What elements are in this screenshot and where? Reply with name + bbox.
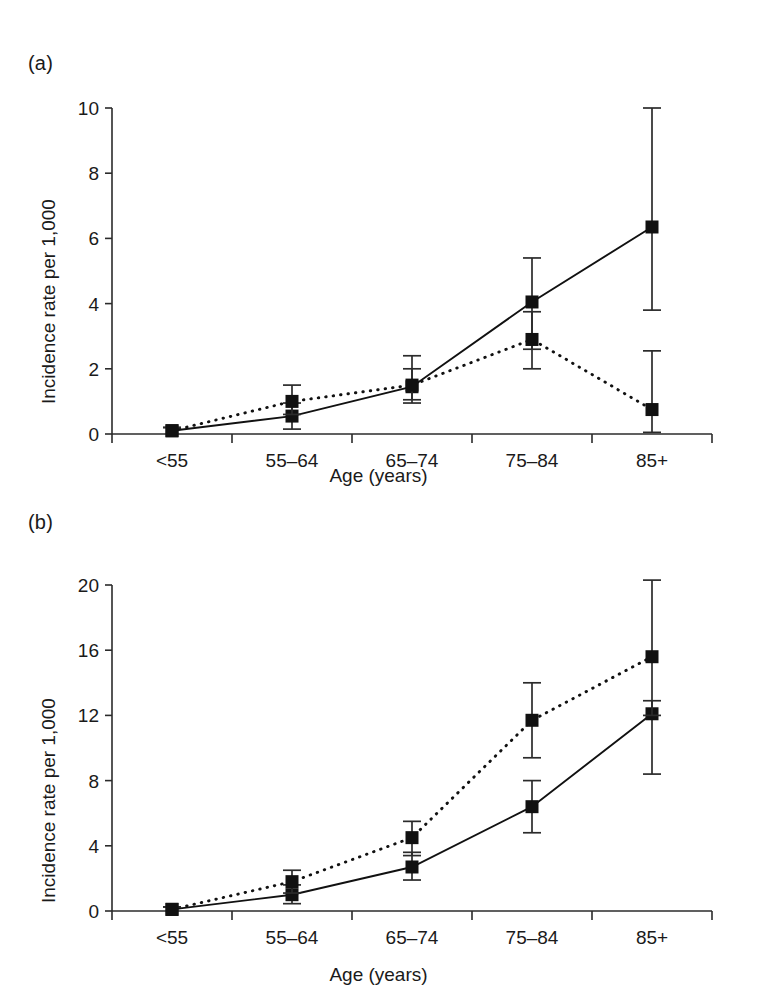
y-tick-label: 16: [78, 640, 99, 661]
data-point-marker: [526, 800, 539, 813]
x-tick-label: 85+: [636, 927, 668, 948]
plot-area-b: 048121620<5555–6465–7475–8485+: [0, 497, 757, 997]
data-point-marker: [526, 333, 539, 346]
y-tick-label: 8: [88, 771, 99, 792]
data-point-marker: [286, 395, 299, 408]
data-point-marker: [646, 220, 659, 233]
x-tick-label: 55–64: [266, 927, 319, 948]
data-point-marker: [646, 403, 659, 416]
x-tick-label: <55: [156, 927, 188, 948]
x-tick-label: 65–74: [386, 927, 439, 948]
y-tick-label: 20: [78, 575, 99, 596]
x-axis-label-a: Age (years): [0, 465, 757, 487]
x-tick-label: 75–84: [506, 927, 559, 948]
data-point-marker: [166, 903, 179, 916]
y-tick-label: 4: [88, 294, 99, 315]
data-point-marker: [406, 379, 419, 392]
data-point-marker: [406, 860, 419, 873]
figure-container: (a) Incidence rate per 1,000 0246810<555…: [0, 0, 757, 997]
chart-panel-b: (b) Incidence rate per 1,000 048121620<5…: [0, 497, 757, 997]
y-tick-label: 2: [88, 359, 99, 380]
y-tick-label: 8: [88, 163, 99, 184]
data-point-marker: [406, 831, 419, 844]
data-point-marker: [526, 714, 539, 727]
x-axis-label-b: Age (years): [0, 964, 757, 986]
plot-area-a: 0246810<5555–6465–7475–8485+: [0, 0, 757, 500]
data-point-marker: [646, 650, 659, 663]
data-point-marker: [166, 424, 179, 437]
y-tick-label: 4: [88, 836, 99, 857]
y-tick-label: 6: [88, 228, 99, 249]
y-tick-label: 0: [88, 424, 99, 445]
y-tick-label: 12: [78, 705, 99, 726]
y-tick-label: 0: [88, 901, 99, 922]
data-point-marker: [286, 875, 299, 888]
chart-panel-a: (a) Incidence rate per 1,000 0246810<555…: [0, 0, 757, 500]
y-tick-label: 10: [78, 98, 99, 119]
data-point-marker: [526, 295, 539, 308]
